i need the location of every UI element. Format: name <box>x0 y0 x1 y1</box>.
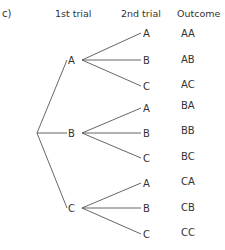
second-trial-node: A <box>143 178 150 189</box>
second-trial-node: B <box>143 128 150 139</box>
second-trial-node: A <box>143 103 150 114</box>
branch-edge <box>82 33 141 60</box>
second-trial-node: A <box>143 28 150 39</box>
header-first-trial: 1st trial <box>55 8 91 19</box>
outcome-label: BB <box>181 125 195 136</box>
first-trial-node: C <box>68 203 75 214</box>
tree-diagram: c) 1st trial 2nd trial Outcome AAAABABCA… <box>0 0 225 250</box>
first-trial-node: B <box>68 128 75 139</box>
header-second-trial: 2nd trial <box>121 8 161 19</box>
branch-edge <box>82 208 141 234</box>
branch-edge <box>82 183 141 208</box>
second-trial-node: C <box>143 153 150 164</box>
part-label: c) <box>2 8 11 19</box>
outcome-label: AC <box>181 79 195 90</box>
outcome-label: CC <box>181 227 195 238</box>
first-trial-node: A <box>68 55 75 66</box>
second-trial-node: C <box>143 229 150 240</box>
branch-edge <box>82 133 141 158</box>
second-trial-node: B <box>143 55 150 66</box>
header-outcome: Outcome <box>177 8 221 19</box>
outcome-label: CA <box>181 176 195 187</box>
tree-edges <box>37 33 141 234</box>
second-trial-node: B <box>143 203 150 214</box>
branch-edge <box>82 60 141 86</box>
outcome-label: BC <box>181 151 195 162</box>
second-trial-node: C <box>143 81 150 92</box>
root-edge <box>37 133 67 208</box>
root-edge <box>37 60 67 133</box>
outcome-label: AA <box>181 28 195 39</box>
branch-edge <box>82 108 141 133</box>
outcome-label: CB <box>181 202 195 213</box>
outcome-label: BA <box>181 100 195 111</box>
outcome-label: AB <box>181 54 195 65</box>
